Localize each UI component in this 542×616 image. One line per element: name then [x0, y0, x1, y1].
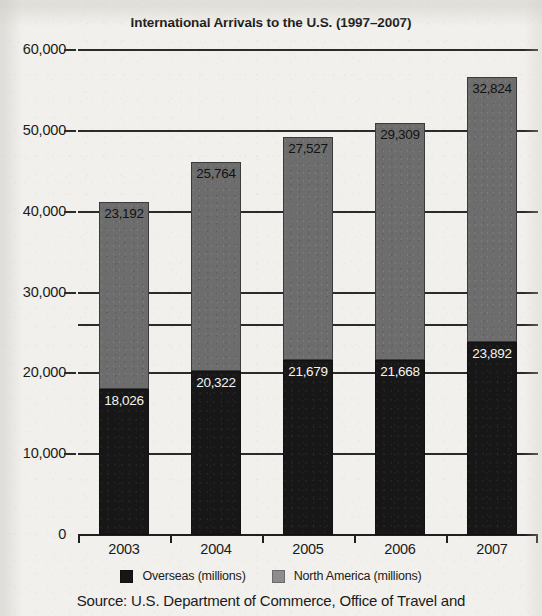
- y-axis-tick: [64, 453, 76, 455]
- x-axis-tick: [536, 536, 538, 543]
- bar-value-label: 18,026: [100, 393, 148, 408]
- x-axis-tick-label-2005: 2005: [273, 541, 343, 557]
- y-axis-tick-label: 0: [0, 526, 66, 542]
- y-axis-tick: [64, 49, 76, 51]
- bar-2005[interactable]: 27,52721,679: [283, 137, 333, 535]
- legend-label-north-america: North America (millions): [294, 569, 422, 583]
- bar-value-label: 20,322: [192, 375, 240, 390]
- bar-segment-overseas-2005[interactable]: 21,679: [283, 360, 333, 535]
- bar-segment-north-america-2004[interactable]: 25,764: [191, 162, 241, 370]
- y-axis-tick-label: 30,000: [0, 284, 66, 300]
- x-axis-tick-label-2006: 2006: [365, 541, 435, 557]
- y-axis-tick-label: 20,000: [0, 364, 66, 380]
- y-axis-tick-label: 60,000: [0, 41, 66, 57]
- x-axis-tick: [354, 536, 356, 543]
- x-axis-tick-label-2007: 2007: [457, 541, 527, 557]
- chart-legend: Overseas (millions) North America (milli…: [0, 566, 542, 586]
- legend-item-overseas[interactable]: Overseas (millions): [120, 569, 245, 583]
- bar-value-label: 29,309: [376, 127, 424, 142]
- chart-title: International Arrivals to the U.S. (1997…: [0, 15, 542, 30]
- bar-segment-north-america-2005[interactable]: 27,527: [283, 137, 333, 360]
- bar-value-label: 27,527: [284, 141, 332, 156]
- x-axis-tick-label-2003: 2003: [89, 541, 159, 557]
- x-axis-tick-label-2004: 2004: [181, 541, 251, 557]
- bar-segment-overseas-2004[interactable]: 20,322: [191, 371, 241, 535]
- x-axis-tick: [446, 536, 448, 543]
- bar-2007[interactable]: 32,82423,892: [467, 77, 517, 535]
- legend-swatch-north-america-icon: [272, 570, 285, 583]
- bar-segment-overseas-2003[interactable]: 18,026: [99, 389, 149, 535]
- legend-item-north-america[interactable]: North America (millions): [272, 569, 422, 583]
- gridline-60000: [78, 49, 538, 51]
- y-axis-tick: [64, 211, 76, 213]
- bar-segment-overseas-2007[interactable]: 23,892: [467, 342, 517, 535]
- legend-swatch-overseas-icon: [120, 570, 133, 583]
- bar-2006[interactable]: 29,30921,668: [375, 123, 425, 535]
- bar-2004[interactable]: 25,76420,322: [191, 162, 241, 535]
- chart-source-note: Source: U.S. Department of Commerce, Off…: [0, 592, 542, 609]
- y-axis-tick: [64, 372, 76, 374]
- bar-segment-north-america-2006[interactable]: 29,309: [375, 123, 425, 360]
- legend-label-overseas: Overseas (millions): [142, 569, 245, 583]
- y-axis-tick-label: 50,000: [0, 122, 66, 138]
- bar-value-label: 23,192: [100, 206, 148, 221]
- bar-segment-north-america-2003[interactable]: 23,192: [99, 202, 149, 389]
- chart-plot-area: 010,00020,00030,00040,00050,00060,00023,…: [0, 0, 542, 560]
- y-axis-tick-label: 40,000: [0, 203, 66, 219]
- bar-value-label: 25,764: [192, 166, 240, 181]
- x-axis-tick: [78, 536, 80, 543]
- y-axis-tick-label: 10,000: [0, 445, 66, 461]
- bar-segment-north-america-2007[interactable]: 32,824: [467, 77, 517, 342]
- x-axis-tick: [262, 536, 264, 543]
- x-axis-tick: [170, 536, 172, 543]
- bar-value-label: 21,679: [284, 364, 332, 379]
- y-axis-tick: [64, 292, 76, 294]
- bar-value-label: 23,892: [468, 346, 516, 361]
- bar-value-label: 32,824: [468, 81, 516, 96]
- bar-segment-overseas-2006[interactable]: 21,668: [375, 360, 425, 535]
- bar-value-label: 21,668: [376, 364, 424, 379]
- y-axis-tick: [64, 130, 76, 132]
- bar-2003[interactable]: 23,19218,026: [99, 202, 149, 535]
